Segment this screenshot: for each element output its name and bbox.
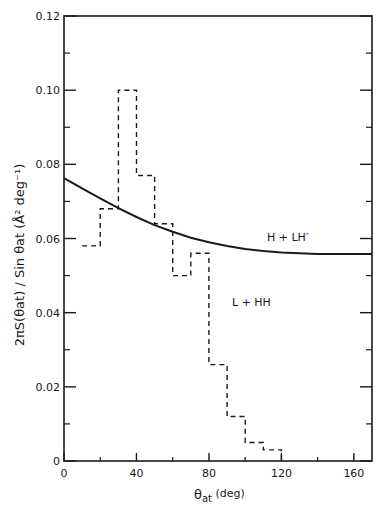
y-tick-label: 0.06 [36,233,61,246]
y-tick-labels: 00.020.040.060.080.100.12 [36,10,61,468]
y-tick-label: 0.08 [36,158,61,171]
x-axis-title-theta: θ [194,487,202,502]
x-tick-label: 0 [61,467,68,480]
x-axis-title: θat (deg) [194,487,245,504]
plot-border [64,16,372,461]
y-tick-label: 0.10 [36,84,61,97]
x-axis-title-unit: (deg) [212,487,245,500]
x-tick-label: 120 [271,467,292,480]
series-h-lh-curve [64,178,372,254]
plot-frame [64,16,372,461]
series-label-l-hh: L + HH [232,296,271,309]
y-tick-label: 0 [53,455,60,468]
x-tick-labels: 04080120160 [61,467,365,480]
x-tick-label: 80 [202,467,216,480]
y-tick-label: 0.02 [36,381,61,394]
y-tick-label: 0.04 [36,307,61,320]
axis-ticks [64,16,372,461]
x-tick-label: 40 [129,467,143,480]
x-axis-title-sub: at [202,493,212,504]
series-label-h-lh: H + LH′ [267,231,309,244]
y-axis-title: 2πS(θat) / Sin θat (Å² deg⁻¹) [12,164,27,347]
series-l-hh-histogram [82,90,281,461]
x-tick-label: 160 [343,467,364,480]
chart: 04080120160 00.020.040.060.080.100.12 H … [0,0,385,513]
y-tick-label: 0.12 [36,10,61,23]
